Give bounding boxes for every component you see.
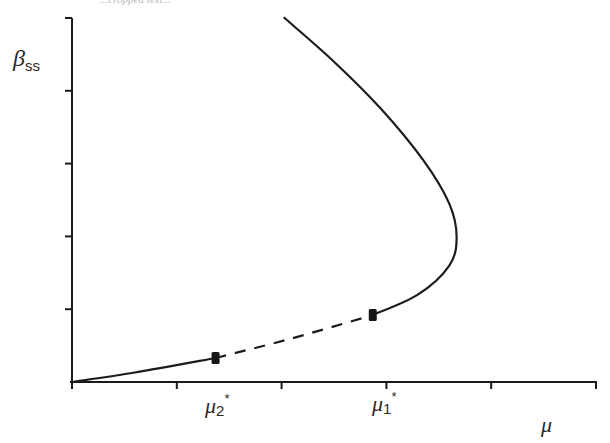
x-ticks (72, 382, 596, 389)
marker-layer (212, 309, 377, 364)
series-stable-lower (72, 358, 216, 382)
bifurcation-point-mu2 (212, 352, 220, 364)
annotation-mu1-star: μ1* (371, 389, 396, 417)
x-axis-label: μ (540, 412, 552, 437)
header-fragment: ...cropped text... (100, 0, 171, 5)
y-axis-label: βss (12, 45, 40, 74)
series-stable-upper (284, 17, 457, 315)
series-unstable (216, 315, 373, 358)
bifurcation-point-mu1 (369, 309, 377, 321)
series-layer (72, 17, 457, 382)
y-ticks (65, 18, 72, 309)
annotation-mu2-star: μ2* (204, 391, 229, 419)
bifurcation-chart: ...cropped text... βss μ μ2* μ1* (0, 0, 610, 443)
